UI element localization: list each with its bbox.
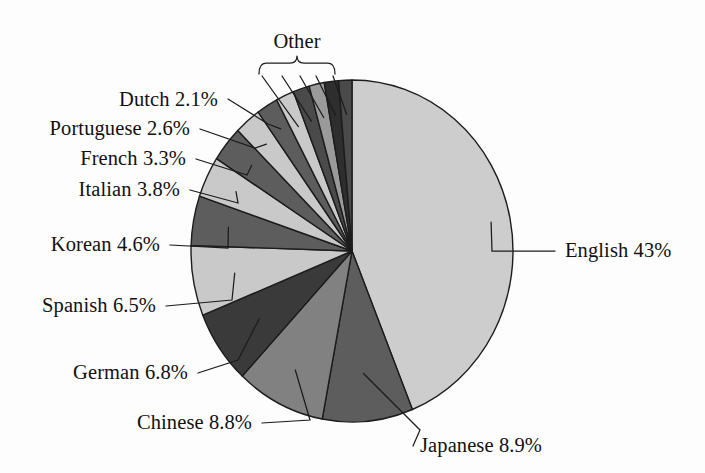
label-portuguese: Portuguese 2.6%: [50, 117, 190, 140]
label-other: Other: [273, 30, 320, 52]
label-english: English 43%: [565, 239, 671, 262]
pie-chart-svg: Other Dutch 2.1% Portuguese 2.6% French …: [0, 0, 705, 473]
label-chinese: Chinese 8.8%: [137, 411, 252, 433]
label-korean: Korean 4.6%: [51, 233, 160, 255]
pie-chart-figure: Other Dutch 2.1% Portuguese 2.6% French …: [0, 0, 705, 473]
label-japanese: Japanese 8.9%: [420, 434, 542, 457]
pie-slices-group: [191, 80, 513, 422]
label-italian: Italian 3.8%: [79, 178, 180, 200]
label-german: German 6.8%: [73, 361, 188, 383]
label-dutch: Dutch 2.1%: [119, 88, 218, 110]
label-spanish: Spanish 6.5%: [42, 294, 156, 317]
other-bracket: [259, 56, 335, 74]
label-french: French 3.3%: [80, 147, 186, 169]
